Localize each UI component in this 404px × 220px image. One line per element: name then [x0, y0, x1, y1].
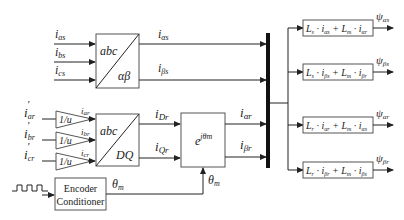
equation-text: Ls · iβs + Lm · iβr: [305, 67, 367, 79]
encoder-conditioner-block: Encoder Conditioner: [55, 178, 106, 210]
label-i-beta-r: iβr: [240, 137, 252, 153]
pulse-train-icon: [12, 185, 48, 191]
flux-equation-beta-r: Lr · iβr + Lm · iβs: [303, 162, 373, 178]
stator-inputs: ias ibs ics: [54, 27, 95, 80]
label-psi-alpha-r: ψαr: [376, 107, 390, 121]
gain-label: 1/u: [59, 114, 72, 125]
flux-equation-alpha-s: Ls · iαs + Lm · iαr: [303, 20, 373, 36]
clarke-bottom-label: αβ: [118, 69, 130, 83]
label-i-Dr: iDr: [155, 106, 169, 122]
label-theta-m-rotation: θm: [208, 173, 220, 188]
prime-mark: ': [27, 98, 30, 110]
gain-label: 1/u: [59, 156, 72, 167]
block-diagram: ias ibs ics abc αβ iαs iβs iar ' ibr ' i…: [0, 0, 404, 220]
label-icr-prime: icr: [24, 147, 35, 163]
label-iar-prime: iar: [24, 105, 36, 121]
encoder-label-line1: Encoder: [64, 183, 98, 194]
flux-equation-beta-s: Ls · iβs + Lm · iβr: [303, 64, 373, 80]
label-ibs: ibs: [55, 45, 65, 60]
label-i-beta-s: iβs: [158, 61, 168, 76]
park-top-label: abc: [100, 124, 118, 138]
encoder-label-line2: Conditioner: [57, 196, 105, 207]
mux-bus-bar: [266, 33, 270, 168]
label-i-alpha-r: iαr: [240, 105, 252, 121]
label-icr: icr: [81, 148, 90, 159]
label-ibr: ibr: [81, 127, 90, 138]
equation-text: Ls · iαs + Lm · iαr: [305, 23, 368, 35]
label-ibr-prime: ibr: [24, 126, 36, 142]
park-bottom-label: DQ: [115, 148, 134, 162]
label-psi-alpha-s: ψαs: [376, 10, 390, 24]
label-iar: iar: [81, 106, 90, 117]
label-i-Qr: iQr: [155, 139, 169, 155]
label-psi-beta-s: ψβs: [376, 54, 389, 68]
rotor-inputs: iar ' ibr ' icr ': [24, 98, 56, 163]
label-psi-beta-r: ψβr: [376, 152, 389, 166]
park-transform-block: abc DQ: [96, 114, 139, 166]
flux-equation-alpha-r: Lr · iαr + Lm · iαs: [303, 117, 373, 133]
label-ics: ics: [55, 63, 65, 78]
label-ias: ias: [55, 27, 65, 42]
label-theta-m-encoder: θm: [112, 177, 124, 192]
clarke-top-label: abc: [100, 44, 118, 58]
label-i-alpha-s: iαs: [158, 27, 169, 42]
gain-label: 1/u: [59, 135, 72, 146]
rotation-block: ejθm: [181, 113, 225, 167]
clarke-transform-block: abc αβ: [96, 34, 139, 88]
equation-text: Lr · iαr + Lm · iαs: [305, 120, 368, 132]
equation-text: Lr · iβr + Lm · iβs: [305, 165, 367, 177]
